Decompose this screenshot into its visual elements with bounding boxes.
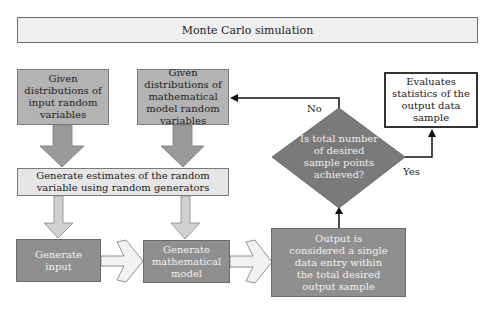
node-evaluate: Evaluates statistics of the output data … — [384, 72, 478, 128]
down-arrow-input-to-estimates — [40, 125, 84, 167]
node-model-distributions: Given distributions of mathematical mode… — [137, 69, 229, 125]
right-arrow-input-to-model — [101, 240, 143, 282]
down-arrow-estimates-to-input — [44, 196, 73, 238]
edge-label-yes: Yes — [403, 166, 420, 177]
arrowhead-yes-to-evaluate — [428, 129, 436, 137]
node-input-distributions: Given distributions of input random vari… — [17, 69, 109, 125]
node-generate-model: Generate mathematical model — [143, 240, 230, 283]
arrowhead-no-to-model — [230, 94, 238, 102]
down-arrow-model-to-estimates — [161, 125, 204, 167]
node-generate-input: Generate input — [16, 239, 101, 282]
right-arrow-model-to-output — [230, 240, 272, 283]
down-arrow-estimates-to-model — [171, 196, 200, 239]
node-output: Output is considered a single data entry… — [271, 228, 406, 297]
diagram-title: Monte Carlo simulation — [17, 17, 478, 43]
decision-text: Is total number of desired sample points… — [298, 136, 380, 178]
node-generate-estimates: Generate estimates of the random variabl… — [17, 168, 229, 196]
edge-label-no: No — [307, 103, 322, 114]
